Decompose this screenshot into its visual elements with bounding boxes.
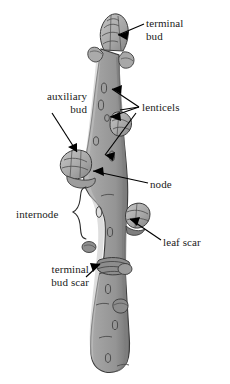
internode-brace	[73, 187, 86, 239]
label-terminal-bud-scar: terminal bud scar	[11, 263, 89, 288]
label-lenticels: lenticels	[142, 101, 180, 114]
label-node: node	[150, 178, 172, 191]
label-terminal-bud: terminal bud	[146, 17, 183, 42]
twig-illustration	[0, 0, 230, 384]
label-auxiliary-bud: auxiliary bud	[13, 90, 87, 115]
label-leaf-scar: leaf scar	[163, 236, 201, 249]
terminal-bud-scar-illustration	[97, 258, 132, 275]
twig-stem	[84, 49, 130, 373]
auxiliary-bud-illustration	[60, 150, 95, 188]
label-internode: internode	[16, 208, 58, 221]
twig-anatomy-figure: terminal bud lenticels auxiliary bud nod…	[0, 0, 230, 384]
